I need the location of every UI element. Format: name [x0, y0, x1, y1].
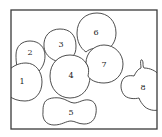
region-label-1: 1: [19, 77, 24, 86]
diagram-canvas: 1 2 3 4 5 6 7 8: [0, 0, 162, 137]
region-label-8: 8: [140, 83, 145, 92]
region-label-2: 2: [27, 48, 32, 57]
blob-diagram: 1 2 3 4 5 6 7 8: [0, 0, 162, 137]
region-label-6: 6: [93, 28, 98, 37]
region-label-4: 4: [68, 71, 73, 80]
region-label-7: 7: [101, 60, 106, 69]
region-label-3: 3: [58, 40, 63, 49]
region-1: [9, 63, 42, 101]
region-label-5: 5: [68, 108, 73, 117]
